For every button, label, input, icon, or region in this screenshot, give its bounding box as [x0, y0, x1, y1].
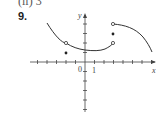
- open-point-left-curve-end: [111, 41, 114, 44]
- origin-label: 0: [78, 65, 82, 74]
- filled-point-b: [112, 33, 115, 36]
- filled-point-a: [65, 52, 68, 55]
- right-curve: [113, 24, 152, 52]
- x-tick-label-1: 1: [92, 66, 96, 75]
- y-axis-label: y: [77, 11, 82, 20]
- function-graph: x y 0 1: [0, 0, 162, 128]
- y-axis: [83, 13, 87, 112]
- left-curve: [47, 23, 113, 51]
- open-point-left-curve: [64, 41, 67, 44]
- x-axis-label: x: [151, 66, 156, 75]
- x-axis: [30, 60, 156, 64]
- y-axis-arrow-icon: [83, 13, 87, 18]
- open-point-right-curve-start: [111, 22, 114, 25]
